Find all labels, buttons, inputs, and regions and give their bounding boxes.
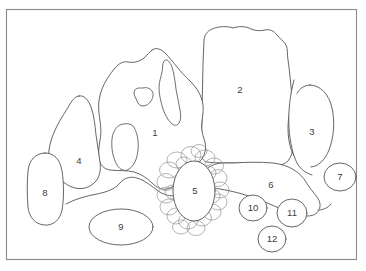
rock-outline-diagram: 1 2 3 4 5 6 7 8 9 10 11 12	[0, 0, 366, 271]
region-3-label: 3	[309, 126, 314, 137]
region-11-label: 11	[287, 207, 297, 218]
region-4-label: 4	[76, 155, 81, 166]
region-12-label: 12	[267, 233, 278, 244]
region-5-label: 5	[192, 185, 197, 196]
figure-page: 1 2 3 4 5 6 7 8 9 10 11 12	[0, 0, 366, 271]
region-10-label: 10	[248, 202, 259, 213]
region-7-label: 7	[337, 171, 342, 182]
region-8-label: 8	[42, 187, 47, 198]
region-6-label: 6	[268, 179, 273, 190]
region-2-shape[interactable]	[201, 27, 293, 166]
region-2-label: 2	[237, 84, 242, 95]
region-1-lower-hole	[112, 124, 139, 171]
region-1-label: 1	[152, 127, 157, 138]
region-9-label: 9	[118, 221, 123, 232]
